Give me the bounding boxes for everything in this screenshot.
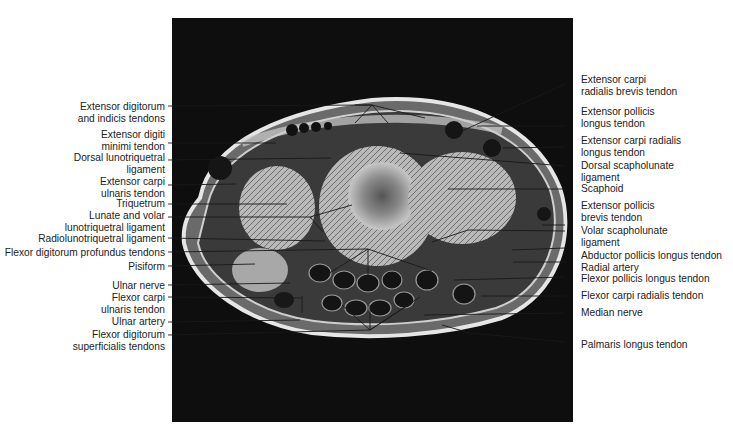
label-flexor-carpi-ulnaris-tendon: Flexor carpi ulnaris tendon bbox=[101, 292, 165, 315]
label-flexor-digitorum-profundus-tendons: Flexor digitorum profundus tendons bbox=[5, 247, 165, 259]
label-extensor-carpi-radialis-brevis-tendon: Extensor carpi radialis brevis tendon bbox=[581, 74, 677, 97]
label-scaphoid: Scaphoid bbox=[581, 183, 623, 195]
label-flexor-digitorum-superficialis-tendons: Flexor digitorum superficialis tendons bbox=[73, 329, 165, 352]
label-radial-artery: Radial artery bbox=[581, 262, 639, 274]
label-extensor-digiti-minimi-tendon: Extensor digiti minimi tendon bbox=[101, 129, 165, 152]
label-pisiform: Pisiform bbox=[128, 261, 165, 273]
label-dorsal-scapholunate-ligament: Dorsal scapholunate ligament bbox=[581, 160, 674, 183]
label-dorsal-lunotriquetral-ligament: Dorsal lunotriquetral ligament bbox=[74, 152, 165, 175]
label-extensor-digitorum-and-indicis-tendons: Extensor digitorum and indicis tendons bbox=[78, 101, 165, 124]
label-extensor-pollicis-longus-tendon: Extensor pollicis longus tendon bbox=[581, 106, 655, 129]
label-flexor-pollicis-longus-tendon: Flexor pollicis longus tendon bbox=[581, 273, 710, 285]
label-flexor-carpi-radialis-tendon: Flexor carpi radialis tendon bbox=[581, 290, 703, 302]
label-palmaris-longus-tendon: Palmaris longus tendon bbox=[581, 339, 687, 351]
label-radiolunotriquetral-ligament: Radiolunotriquetral ligament bbox=[38, 233, 165, 245]
right-leader-lines bbox=[400, 84, 565, 342]
label-volar-scapholunate-ligament: Volar scapholunate ligament bbox=[581, 225, 668, 248]
label-ulnar-artery: Ulnar artery bbox=[112, 316, 165, 328]
label-ulnar-nerve: Ulnar nerve bbox=[112, 280, 165, 292]
label-extensor-carpi-ulnaris-tendon: Extensor carpi ulnaris tendon bbox=[100, 176, 165, 199]
label-extensor-carpi-radialis-longus-tendon: Extensor carpi radialis longus tendon bbox=[581, 135, 681, 158]
left-leader-lines bbox=[168, 105, 432, 335]
label-median-nerve: Median nerve bbox=[581, 307, 643, 319]
label-lunate-and-volar-lunotriquetral-ligament: Lunate and volar lunotriquetral ligament bbox=[65, 210, 165, 233]
label-triquetrum: Triquetrum bbox=[116, 198, 165, 210]
label-extensor-pollicis-brevis-tendon: Extensor pollicis brevis tendon bbox=[581, 200, 655, 223]
label-abductor-pollicis-longus-tendon: Abductor pollicis longus tendon bbox=[581, 250, 722, 262]
